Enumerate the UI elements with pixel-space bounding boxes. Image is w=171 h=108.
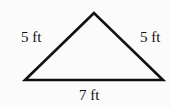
right-side-label: 5 ft bbox=[140, 30, 160, 45]
triangle-diagram: 5 ft 5 ft 7 ft bbox=[0, 0, 171, 108]
left-side-label: 5 ft bbox=[21, 30, 41, 45]
base-label: 7 ft bbox=[79, 88, 99, 103]
